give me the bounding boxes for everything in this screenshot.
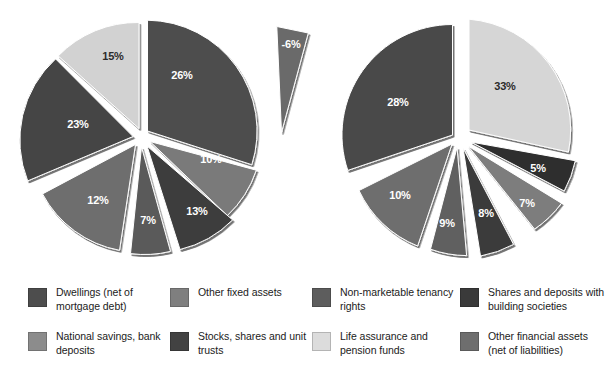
legend-item-other-fixed-assets[interactable]: Other fixed assets — [170, 286, 312, 330]
right-slice-label-8: 8% — [478, 207, 494, 219]
legend-label-other-financial-assets: Other financial assets (net of liabiliti… — [488, 330, 608, 357]
left-pie-chart: 26% 10% 13% 7% 12% — [20, 20, 308, 254]
legend-label-national-savings: National savings, bank deposits — [56, 330, 170, 357]
legend-label-tenancy-rights: Non-marketable tenancy rights — [340, 286, 460, 313]
right-slice-label-5: 5% — [530, 162, 546, 174]
legend-item-other-financial-assets[interactable]: Other financial assets (net of liabiliti… — [460, 330, 609, 374]
pie-charts-svg: 26% 10% 13% 7% 12% — [0, 0, 602, 285]
right-slice-life-assurance[interactable]: 33% — [469, 19, 571, 152]
legend-swatch-other-financial-assets — [460, 332, 479, 351]
legend-item-national-savings[interactable]: National savings, bank deposits — [28, 330, 170, 374]
left-slice-label-12: 12% — [87, 194, 109, 206]
right-slice-label-9: 9% — [439, 217, 455, 229]
legend-label-life-assurance: Life assurance and pension funds — [340, 330, 460, 357]
legend-swatch-life-assurance — [312, 332, 331, 351]
left-slice-label-10: 10% — [200, 153, 222, 165]
legend-swatch-tenancy-rights — [312, 288, 331, 307]
legend-swatch-dwellings — [28, 288, 47, 307]
legend-label-dwellings: Dwellings (net of mortgage debt) — [56, 286, 170, 313]
legend-label-building-societies: Shares and deposits with building societ… — [488, 286, 608, 313]
legend-item-building-societies[interactable]: Shares and deposits with building societ… — [460, 286, 609, 330]
left-slice-label-26: 26% — [171, 69, 193, 81]
legend-item-tenancy-rights[interactable]: Non-marketable tenancy rights — [312, 286, 460, 330]
left-slice-label-7: 7% — [140, 214, 156, 226]
legend-swatch-building-societies — [460, 288, 479, 307]
left-slice-label-13: 13% — [186, 205, 208, 217]
right-slice-label-28: 28% — [387, 96, 409, 108]
legend-swatch-national-savings — [28, 332, 47, 351]
legend-item-stocks-shares[interactable]: Stocks, shares and unit trusts — [170, 330, 312, 374]
left-slice-other-financial-assets-negative[interactable]: -6% — [277, 27, 309, 133]
legend-label-stocks-shares: Stocks, shares and unit trusts — [198, 330, 312, 357]
right-slice-dwellings[interactable]: 28% — [342, 24, 453, 170]
legend-item-life-assurance[interactable]: Life assurance and pension funds — [312, 330, 460, 374]
legend-item-dwellings[interactable]: Dwellings (net of mortgage debt) — [28, 286, 170, 330]
legend-swatch-stocks-shares — [170, 332, 189, 351]
right-slice-label-7: 7% — [519, 197, 535, 209]
left-slice-label-neg6: -6% — [282, 38, 301, 50]
left-slice-dwellings[interactable]: 26% — [148, 20, 258, 165]
left-slice-label-23: 23% — [67, 118, 89, 130]
right-slice-label-10: 10% — [389, 189, 411, 201]
right-pie-chart: 33% 5% 7% 8% 9% — [342, 19, 575, 256]
right-slice-label-33: 33% — [494, 80, 516, 92]
chart-legend: Dwellings (net of mortgage debt) Other f… — [0, 286, 602, 388]
left-slice-label-15: 15% — [102, 50, 124, 62]
legend-swatch-other-fixed-assets — [170, 288, 189, 307]
legend-label-other-fixed-assets: Other fixed assets — [198, 286, 282, 300]
